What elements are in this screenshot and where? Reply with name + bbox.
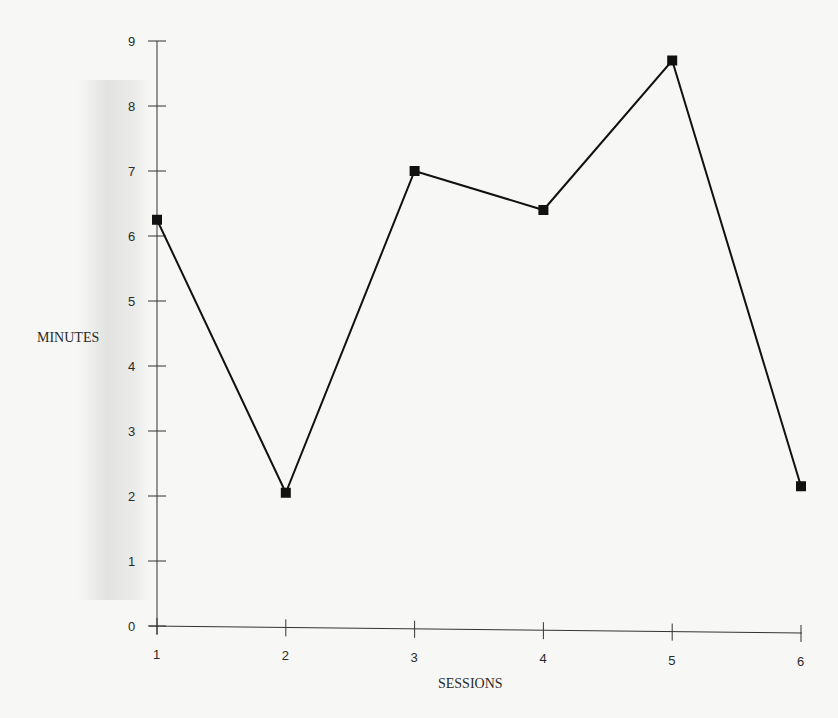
y-tick-label: 3: [128, 424, 135, 439]
y-tick-label: 0: [128, 619, 135, 634]
data-point-marker: [667, 56, 677, 66]
y-tick-label: 2: [128, 489, 135, 504]
series-minutes: [152, 56, 806, 498]
y-tick-label: 6: [128, 229, 135, 244]
y-tick-label: 8: [128, 99, 135, 114]
x-tick-label: 3: [411, 650, 418, 665]
y-tick-label: 4: [128, 359, 135, 374]
data-point-marker: [538, 205, 548, 215]
x-tick-label: 5: [668, 653, 675, 668]
x-tick-label: 6: [797, 654, 804, 669]
y-tick-label: 7: [128, 164, 135, 179]
x-tick-label: 2: [282, 648, 289, 663]
y-tick-label: 9: [128, 34, 135, 49]
y-tick-label: 1: [128, 554, 135, 569]
x-axis: 123456: [149, 618, 804, 669]
x-axis-line: [149, 626, 802, 633]
y-tick-label: 5: [128, 294, 135, 309]
data-point-marker: [281, 488, 291, 498]
x-tick-label: 1: [153, 647, 160, 662]
data-point-marker: [152, 215, 162, 225]
data-point-marker: [410, 166, 420, 176]
x-tick-label: 4: [539, 651, 546, 666]
series-line: [157, 61, 801, 493]
line-chart: 0123456789 123456 MINUTES SESSIONS: [0, 0, 838, 718]
y-axis-title: MINUTES: [37, 330, 99, 345]
y-axis: 0123456789: [128, 34, 166, 634]
data-point-marker: [796, 481, 806, 491]
x-axis-title: SESSIONS: [438, 676, 503, 691]
